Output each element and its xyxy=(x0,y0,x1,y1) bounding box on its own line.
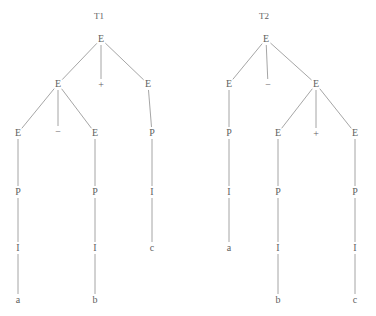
tree-node-nonterminal: I xyxy=(150,187,153,197)
tree-node-nonterminal: E xyxy=(92,128,98,138)
tree-node-nonterminal: P xyxy=(15,187,21,197)
tree-node-nonterminal: E xyxy=(263,34,269,44)
tree-node-nonterminal: P xyxy=(226,128,232,138)
tree-node-nonterminal: E xyxy=(313,79,319,89)
tree-node-terminal: a xyxy=(227,243,231,253)
tree-node-nonterminal: P xyxy=(275,187,281,197)
tree-title-t2: T2 xyxy=(259,12,269,21)
tree-node-nonterminal: E xyxy=(275,128,281,138)
tree-node-nonterminal: E xyxy=(15,128,21,138)
tree-node-nonterminal: E xyxy=(226,79,232,89)
tree-node-nonterminal: E xyxy=(55,79,61,89)
tree-node-terminal: c xyxy=(353,295,357,305)
tree-node-nonterminal: E xyxy=(352,128,358,138)
tree-node-nonterminal: I xyxy=(276,243,279,253)
tree-node-operator: + xyxy=(98,80,104,90)
tree-node-operator: − xyxy=(265,80,271,90)
tree-node-nonterminal: E xyxy=(98,34,104,44)
tree-node-nonterminal: P xyxy=(352,187,358,197)
tree-title-t1: T1 xyxy=(94,12,104,21)
tree-node-operator: − xyxy=(55,127,61,137)
tree-node-operator: + xyxy=(313,129,319,139)
tree-node-nonterminal: P xyxy=(149,128,155,138)
tree-node-terminal: a xyxy=(16,295,20,305)
tree-node-terminal: c xyxy=(150,243,154,253)
tree-node-nonterminal: I xyxy=(353,243,356,253)
tree-node-nonterminal: P xyxy=(92,187,98,197)
parse-tree-figure: T1EE+EE−EPPPIIIcabT2EE−EPE+EIPPaIIbc xyxy=(0,0,376,316)
tree-node-nonterminal: E xyxy=(145,79,151,89)
tree-node-terminal: b xyxy=(93,295,98,305)
tree-node-nonterminal: I xyxy=(16,243,19,253)
tree-node-nonterminal: I xyxy=(227,187,230,197)
tree-node-nonterminal: I xyxy=(93,243,96,253)
tree-node-layer: T1EE+EE−EPPPIIIcabT2EE−EPE+EIPPaIIbc xyxy=(0,0,376,316)
tree-node-terminal: b xyxy=(276,295,281,305)
